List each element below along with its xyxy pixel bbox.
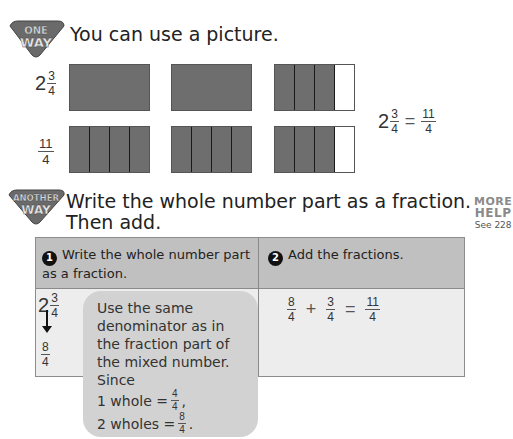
numerator: 3 [47,70,56,84]
model-part-shaded [315,127,335,172]
section1-heading: You can use a picture. [70,23,279,45]
denominator: 4 [425,122,432,135]
svg-text:ANOTHER: ANOTHER [13,193,60,203]
numerator: 3 [390,108,399,122]
step-number-badge: 2 [268,251,283,266]
numerator: 8 [41,341,50,355]
improper-fraction-label: 11 4 [38,137,54,166]
fraction-model-four-fourths [171,126,252,173]
step2-title: Add the fractions. [288,247,404,262]
model-part-shaded [172,127,192,172]
step2-header: 2Add the fractions. [268,247,458,266]
model-part [70,65,149,110]
mixed-number: 2 3 4 [378,108,399,135]
model-part-shaded [212,127,232,172]
section2-heading-line1: Write the whole number part as a fractio… [66,190,471,212]
hint-callout: Use the same denominator as in the fract… [83,291,258,437]
table-header: 1Write the whole number part as a fracti… [36,238,464,289]
model-part-shaded [295,127,315,172]
denominator: 4 [288,310,295,323]
denominator: 4 [42,355,49,368]
punctuation: , [182,392,186,410]
numerator: 8 [178,412,186,424]
numerator: 11 [421,108,435,122]
model-part-shaded [90,127,110,172]
model-part-shaded [275,127,295,172]
fraction: 3 4 [50,292,59,319]
fraction: 8 4 [41,341,50,368]
model-part-empty [335,127,354,172]
mixed-number: 2 3 4 [38,292,59,319]
model-part-shaded [110,127,130,172]
plus-sign: + [306,299,317,320]
denominator: 4 [172,401,178,412]
callout-eq-text: 1 whole = [97,392,168,410]
fraction-model-three-fourths [274,126,355,173]
fraction: 11 4 [365,296,379,323]
equivalence-equation: 2 3 4 = 11 4 [378,108,436,135]
callout-line: the fraction part of [97,335,246,353]
callout-eq-text: 2 wholes = [97,415,175,433]
callout-eq-1: 1 whole = 4 4 , [97,389,246,412]
equals-sign: = [405,111,416,132]
fraction: 3 4 [390,108,399,135]
step1-title: Write the whole number part as a fractio… [42,247,250,281]
step1-header: 1Write the whole number part as a fracti… [42,247,252,282]
denominator: 4 [48,84,55,97]
model-part-shaded [130,127,149,172]
callout-line: denominator as in [97,317,246,335]
fraction: 8 4 [287,296,296,323]
whole-as-fraction: 8 4 [41,341,50,368]
model-part-shaded [275,65,295,110]
model-part-shaded [70,127,90,172]
denominator: 4 [327,310,334,323]
numerator: 4 [171,389,179,401]
callout-line: Since [97,371,246,389]
whole-part: 2 [378,110,389,133]
model-part-shaded [192,127,212,172]
step-number-badge: 1 [42,251,57,266]
model-part [172,65,251,110]
numerator: 3 [50,292,59,306]
whole-part: 2 [35,72,46,95]
callout-eq-2: 2 wholes = 8 4 . [97,412,246,435]
fraction-model-four-fourths [69,126,150,173]
fraction: 8 4 [178,412,186,435]
fraction: 3 4 [47,70,56,97]
more-help-link[interactable]: MORE HELP See 228 [474,196,512,231]
equals-sign: = [345,299,356,320]
down-arrow-icon [46,310,48,327]
fraction-model-whole [69,64,150,111]
numerator: 11 [365,296,379,310]
section2-heading-line2: Then add. [66,211,161,233]
mixed-number-label: 2 3 4 [35,70,56,97]
svg-text:WAY: WAY [20,35,53,50]
denominator: 4 [391,122,398,135]
model-part-shaded [232,127,251,172]
fraction-model-whole [171,64,252,111]
callout-line: the mixed number. [97,353,246,371]
svg-text:WAY: WAY [21,203,51,217]
denominator: 4 [51,306,58,319]
model-part-shaded [315,65,335,110]
fraction: 11 4 [38,137,54,166]
numerator: 3 [326,296,335,310]
more-help-line2: HELP [474,207,512,219]
denominator: 4 [369,310,376,323]
denominator: 4 [42,152,49,166]
fraction-model-three-fourths [274,64,355,111]
numerator: 11 [38,137,54,152]
punctuation: . [189,415,193,433]
another-way-badge-icon: ANOTHER WAY [6,189,66,225]
fraction: 3 4 [326,296,335,323]
model-part-shaded [295,65,315,110]
model-part-empty [335,65,354,110]
numerator: 8 [287,296,296,310]
denominator: 4 [179,424,185,435]
fraction: 4 4 [171,389,179,412]
callout-line: Use the same [97,299,246,317]
fraction: 11 4 [421,108,435,135]
more-help-page-ref: See 228 [474,219,512,231]
one-way-badge-icon: ONE WAY [6,20,66,58]
column-divider [258,238,259,376]
